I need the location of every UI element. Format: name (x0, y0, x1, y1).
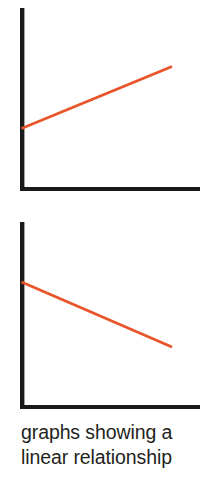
figure-caption: graphs showing a linear relationship (21, 420, 208, 470)
chart-decreasing-linear-relationship (0, 214, 208, 414)
decreasing-chart-svg (0, 214, 208, 414)
linear-relationship-figure: graphs showing a linear relationship (0, 0, 208, 479)
chart-background (0, 0, 208, 200)
chart-increasing-linear-relationship (0, 0, 208, 200)
chart-background (0, 214, 208, 414)
increasing-chart-svg (0, 0, 208, 200)
